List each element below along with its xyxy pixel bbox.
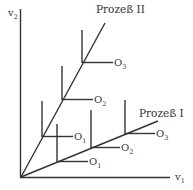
process-1-output-1-label: O1 bbox=[89, 156, 101, 170]
process-1-output-2-label: O2 bbox=[121, 142, 133, 156]
process-1-output-3-label: O3 bbox=[156, 128, 168, 142]
process-2-output-1-label: O1 bbox=[74, 131, 86, 145]
process-2-label: Prozeß II bbox=[96, 3, 145, 15]
process-1-label: Prozeß I bbox=[139, 107, 184, 119]
process-2-output-2-label: O2 bbox=[94, 94, 106, 108]
y-axis-label: v2 bbox=[7, 7, 18, 21]
process-diagram: v2 v1 Prozeß II Prozeß I O1 O2 O3 O1 O2 … bbox=[0, 0, 193, 190]
process-2-output-3-label: O3 bbox=[114, 57, 126, 71]
process-2-node-2 bbox=[62, 66, 93, 100]
x-axis-label: v1 bbox=[174, 171, 185, 185]
